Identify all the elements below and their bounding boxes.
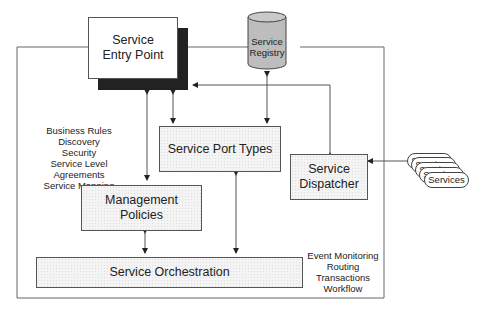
orchestration-label: Service Orchestration bbox=[109, 265, 229, 280]
registry-label-1: Service bbox=[246, 36, 288, 47]
annotation-workflow: Workflow bbox=[305, 283, 381, 294]
service-registry-label: Service Registry bbox=[246, 36, 288, 58]
entry-point-label-1: Service bbox=[112, 33, 154, 48]
dispatcher-label-1: Service bbox=[308, 162, 350, 177]
services-item[interactable]: Services bbox=[424, 172, 469, 188]
annotation-transactions: Transactions bbox=[305, 272, 381, 283]
service-port-types-node[interactable]: Service Port Types bbox=[159, 126, 281, 172]
service-orchestration-node[interactable]: Service Orchestration bbox=[36, 257, 303, 288]
management-policies-node[interactable]: Management Policies bbox=[81, 185, 202, 231]
port-types-label: Service Port Types bbox=[168, 142, 273, 157]
service-entry-point-node[interactable]: Service Entry Point bbox=[88, 17, 178, 79]
policies-label: Management Policies bbox=[82, 193, 201, 223]
annotation-discovery: Discovery bbox=[24, 136, 134, 147]
entry-point-label-2: Entry Point bbox=[102, 48, 163, 63]
annotation-security: Security bbox=[24, 147, 134, 158]
annotation-business-rules: Business Rules bbox=[24, 125, 134, 136]
annotation-sla: Service Level Agreements bbox=[24, 158, 134, 180]
policies-annotation: Business Rules Discovery Security Servic… bbox=[24, 125, 134, 191]
annotation-routing: Routing bbox=[305, 261, 381, 272]
dispatcher-label-2: Dispatcher bbox=[299, 177, 359, 192]
service-dispatcher-node[interactable]: Service Dispatcher bbox=[290, 154, 368, 200]
registry-label-2: Registry bbox=[246, 47, 288, 58]
orchestration-annotation: Event Monitoring Routing Transactions Wo… bbox=[305, 250, 381, 294]
annotation-event-monitoring: Event Monitoring bbox=[305, 250, 381, 261]
